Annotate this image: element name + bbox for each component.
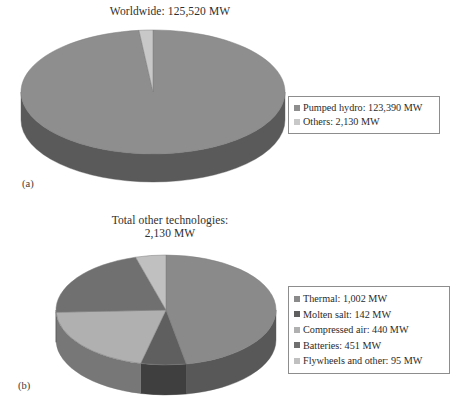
legend-b: Thermal: 1,002 MWMolten salt: 142 MWComp… bbox=[288, 286, 450, 374]
legend-a: Pumped hydro: 123,390 MWOthers: 2,130 MW bbox=[288, 96, 440, 134]
legend-swatch-icon bbox=[294, 358, 300, 364]
legend-swatch-icon bbox=[294, 296, 300, 302]
legend-swatch-icon bbox=[294, 311, 300, 317]
legend-b-item[interactable]: Thermal: 1,002 MW bbox=[294, 291, 443, 307]
pie-b-svg bbox=[40, 244, 290, 404]
legend-b-item[interactable]: Flywheels and other: 95 MW bbox=[294, 353, 443, 369]
pie-slice-side bbox=[141, 364, 187, 395]
panel-label-a: (a) bbox=[22, 178, 34, 189]
legend-b-label: Thermal: 1,002 MW bbox=[303, 291, 387, 307]
panel-a: Worldwide: 125,520 MW Pumped hydro: 123,… bbox=[0, 0, 454, 208]
panel-label-b: (b) bbox=[18, 380, 30, 391]
legend-b-label: Molten salt: 142 MW bbox=[303, 307, 391, 323]
legend-b-item[interactable]: Molten salt: 142 MW bbox=[294, 307, 443, 323]
pie-chart-a bbox=[8, 22, 298, 191]
legend-b-label: Batteries: 451 MW bbox=[303, 338, 381, 354]
legend-a-label: Others: 2,130 MW bbox=[303, 115, 380, 129]
pie-a-svg bbox=[8, 22, 298, 187]
legend-b-item[interactable]: Batteries: 451 MW bbox=[294, 338, 443, 354]
legend-swatch-icon bbox=[294, 327, 300, 333]
legend-a-item[interactable]: Others: 2,130 MW bbox=[294, 115, 433, 129]
legend-swatch-icon bbox=[294, 342, 300, 348]
legend-b-item[interactable]: Compressed air: 440 MW bbox=[294, 322, 443, 338]
legend-a-item[interactable]: Pumped hydro: 123,390 MW bbox=[294, 101, 433, 115]
legend-swatch-icon bbox=[294, 105, 300, 111]
legend-swatch-icon bbox=[294, 119, 300, 125]
chart-title-a: Worldwide: 125,520 MW bbox=[55, 5, 285, 18]
chart-title-b: Total other technologies: 2,130 MW bbox=[55, 214, 285, 240]
legend-a-label: Pumped hydro: 123,390 MW bbox=[303, 101, 422, 115]
pie-chart-b bbox=[40, 244, 290, 408]
panel-b: Total other technologies: 2,130 MW Therm… bbox=[0, 208, 454, 416]
legend-b-label: Compressed air: 440 MW bbox=[303, 322, 409, 338]
legend-b-label: Flywheels and other: 95 MW bbox=[303, 353, 422, 369]
